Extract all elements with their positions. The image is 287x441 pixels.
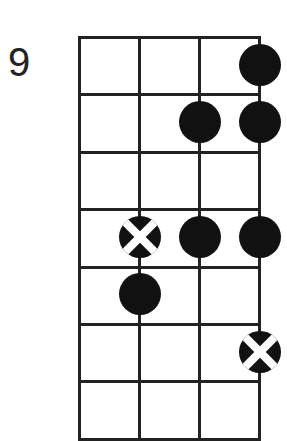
note-marker (179, 101, 221, 143)
fret-line (78, 208, 261, 211)
fret-line (78, 266, 261, 269)
string-line (78, 36, 81, 439)
note-marker (239, 101, 281, 143)
root-note-marker (119, 216, 161, 258)
fret-line (78, 323, 261, 326)
fret-line (78, 93, 261, 96)
note-marker (119, 273, 161, 315)
root-note-marker (239, 331, 281, 373)
starting-fret-label: 9 (8, 40, 30, 84)
note-marker (179, 216, 221, 258)
fret-line (78, 151, 261, 154)
note-marker (239, 44, 281, 86)
fret-line (78, 36, 261, 39)
fret-line (78, 380, 261, 383)
note-marker (239, 216, 281, 258)
